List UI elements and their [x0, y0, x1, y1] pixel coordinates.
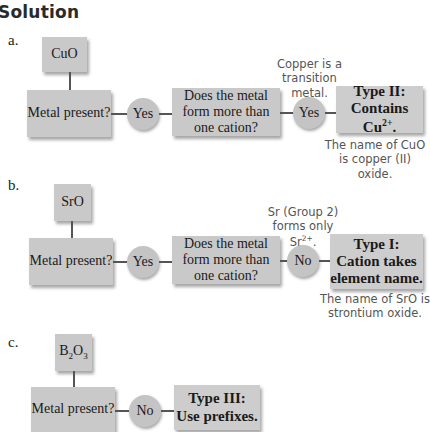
part-label: b.	[8, 177, 19, 194]
connector	[111, 113, 128, 115]
answer-yes-circle: Yes	[127, 246, 159, 278]
connector	[159, 113, 172, 115]
connector	[161, 410, 175, 412]
connector	[159, 261, 172, 263]
part-label: a.	[8, 32, 18, 49]
answer-yes-circle: Yes	[127, 98, 159, 130]
answer-no-circle: No	[287, 245, 319, 277]
formula-box: B2O3	[55, 334, 92, 371]
answer-no-circle: No	[129, 395, 161, 427]
metal-present-box: Metal present?	[29, 238, 113, 285]
result-type-i-box: Type I: Cation takes element name.	[330, 234, 423, 289]
metal-present-box: Metal present?	[31, 387, 115, 432]
annotation-bottom: The name of CuO is copper (II) oxide.	[320, 138, 430, 181]
connector	[71, 221, 73, 239]
part-label: c.	[8, 334, 18, 351]
connector	[113, 261, 128, 263]
annotation-bottom: The name of SrO is strontium oxide.	[320, 292, 430, 321]
result-type-iii-box: Type III: Use prefixes.	[174, 385, 260, 430]
connector	[115, 410, 130, 412]
connector	[73, 371, 75, 388]
solution-heading: Solution	[0, 2, 79, 22]
connector	[69, 72, 71, 90]
formula-box: CuO	[42, 37, 87, 72]
formula-box: SrO	[54, 184, 91, 221]
metal-present-box: Metal present?	[27, 90, 111, 137]
answer-yes-circle: Yes	[293, 97, 325, 129]
connector	[280, 112, 294, 114]
result-type-ii-box: Type II: Contains Cu2+.	[336, 86, 423, 133]
